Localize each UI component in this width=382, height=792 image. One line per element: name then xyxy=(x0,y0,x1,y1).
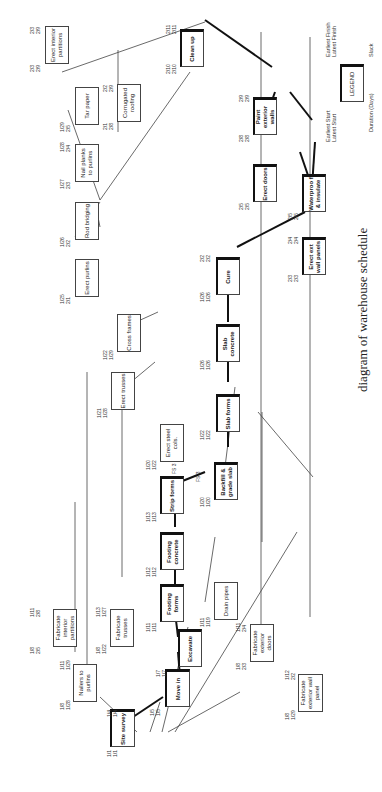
date-label: 1/26 1/26 xyxy=(200,360,211,370)
date-label: 1/25 2/1 xyxy=(60,294,71,304)
node-label: Drain pipes xyxy=(223,586,230,616)
date-label: 2/10 2/10 xyxy=(166,64,177,74)
node-label: Nail planks to purlins xyxy=(80,145,94,181)
node-label: Paint exterior walls xyxy=(255,100,276,134)
date-label: 1/7 1/7 xyxy=(156,670,167,677)
date-label: 1/29 2/5 xyxy=(60,122,71,132)
date-label: 1/13 1/27 xyxy=(96,607,107,617)
node-drain-pipes[interactable]: Drain pipes xyxy=(214,582,238,620)
node-label: Cross frames xyxy=(126,315,133,351)
date-label: 1/22 1/29 xyxy=(103,350,114,360)
node-erect-interior-partitions[interactable]: Erect interior partitions xyxy=(45,26,69,64)
date-label: 2/11 2/11 xyxy=(166,25,177,34)
node-fabricate-trusses[interactable]: Fabricate trusses xyxy=(110,609,134,647)
date-label: 1/26 1/26 xyxy=(200,292,211,302)
node-label: Waterproo f & insulate xyxy=(308,177,322,211)
node-label: Erect steel cols. xyxy=(165,425,179,461)
date-label: 2/5 2/5 xyxy=(239,203,250,210)
node-waterproof-insulate[interactable]: Waterproo f & insulate xyxy=(302,174,326,212)
node-label: Erect doors xyxy=(262,167,269,200)
schedule-diagram: Site survey Move in Nailers to purlins F… xyxy=(0,0,382,792)
node-footing-concrete[interactable]: Footing concrete xyxy=(160,532,184,570)
date-label: 1/27 2/3 xyxy=(60,179,71,189)
legend-finish: Earliest Finish Latest Finish xyxy=(325,22,337,57)
node-label: Erect interior partitions xyxy=(50,27,64,63)
node-excavate[interactable]: Excavate xyxy=(178,629,202,667)
node-cure[interactable]: Cure xyxy=(216,257,240,295)
node-label: Fabricate exterior doors xyxy=(252,625,273,661)
date-label: 2/2 2/2 xyxy=(200,255,211,262)
date-label: 2/3 2/3 xyxy=(288,275,299,282)
node-label: Erect trusses xyxy=(120,374,127,409)
node-erect-doors[interactable]: Erect doors xyxy=(253,164,277,202)
legend-slack: Slack xyxy=(368,44,374,57)
node-fabricate-exterior-doors[interactable]: Fabricate exterior doors xyxy=(250,624,274,662)
date-label: 1/11 1/29 xyxy=(60,660,71,670)
node-erect-purlins[interactable]: Erect purlins xyxy=(75,259,99,297)
node-fabricate-exterior-wall-panel[interactable]: Fabricate exterior wall panel xyxy=(298,674,323,712)
node-nail-planks-to-purlins[interactable]: Nail planks to purlins xyxy=(75,144,99,182)
node-fabricate-interior-partitions[interactable]: Fabricate interior partitions xyxy=(53,609,77,647)
legend-label: LEGEND xyxy=(349,72,356,97)
node-move-in[interactable]: Move in xyxy=(165,669,190,707)
diagram-caption: diagram of warehouse schedule xyxy=(355,228,371,392)
node-strip-forms[interactable]: Strip forms xyxy=(160,476,184,514)
node-label: Fabricate interior partitions xyxy=(55,610,76,646)
node-label: Slab forms xyxy=(225,399,232,430)
node-label: Strip forms xyxy=(169,480,176,512)
node-label: Erect purlins xyxy=(84,261,91,294)
node-label: Footing forms xyxy=(166,587,180,621)
node-erect-ext-wall-panels[interactable]: Erect ext wall panels xyxy=(302,237,326,275)
legend-duration: Duration (Days) xyxy=(368,93,374,132)
date-label: 1/26 2/2 xyxy=(60,237,71,247)
date-label: 1/13 1/13 xyxy=(146,512,157,522)
node-label: Site survey xyxy=(120,713,127,745)
date-label: 1/5 1/5 xyxy=(150,709,161,716)
node-nailers-to-purlins[interactable]: Nailers to purlins xyxy=(73,664,97,702)
fs-annotation: FS 3 xyxy=(172,463,178,474)
node-footing-forms[interactable]: Footing forms xyxy=(160,584,184,622)
node-label: Backfill & grade slab xyxy=(220,465,234,499)
date-label: 1/11 2/8 xyxy=(30,608,41,617)
fs-annotation: FS 3 xyxy=(196,471,202,482)
date-label: 1/8 2/3 xyxy=(236,663,247,670)
node-clean-up[interactable]: Clean up xyxy=(180,29,204,67)
node-label: Fabricate trusses xyxy=(115,610,129,646)
date-label: 2/1 2/8 xyxy=(103,123,114,130)
date-label: 2/5 2/5 xyxy=(288,213,299,220)
node-label: Fabricate exterior wall panel xyxy=(300,675,321,711)
node-label: Excavate xyxy=(187,636,194,662)
node-label: Rod bridging xyxy=(84,204,91,238)
legend-start: Earliest Start Latest Start xyxy=(325,111,337,142)
date-label: 1/1 1/1 xyxy=(107,750,118,757)
node-label: Slab concrete xyxy=(222,327,236,361)
node-erect-trusses[interactable]: Erect trusses xyxy=(111,372,135,410)
node-cross-frames[interactable]: Cross frames xyxy=(117,314,141,352)
date-label: 1/11 1/19 xyxy=(200,617,211,627)
node-label: Nailers to purlins xyxy=(78,665,92,701)
date-label: 1/8 1/29 xyxy=(285,710,296,720)
node-slab-forms[interactable]: Slab forms xyxy=(216,394,240,432)
node-label: Erect ext wall panels xyxy=(308,240,322,274)
node-slab-concrete[interactable]: Slab concrete xyxy=(216,324,240,362)
node-label: Move in xyxy=(175,678,182,700)
date-label: 1/12 2/2 xyxy=(285,670,296,680)
date-label: 1/21 1/28 xyxy=(97,408,108,418)
node-rod-bridging[interactable]: Rod bridging xyxy=(75,202,99,240)
node-corrugated-roofing[interactable]: Corrugated roofing xyxy=(117,84,141,122)
node-erect-steel-cols[interactable]: Erect steel cols. xyxy=(160,424,184,462)
date-label: 1/8 2/5 xyxy=(30,647,41,654)
date-label: 1/28 2/4 xyxy=(60,142,71,152)
date-label: 2/3 2/9 xyxy=(30,27,41,34)
date-label: 1/8 1/28 xyxy=(60,700,71,710)
date-label: 2/9 2/9 xyxy=(239,95,250,102)
date-label: 1/12 1/12 xyxy=(146,567,157,577)
node-tar-paper[interactable]: Tar paper xyxy=(75,87,99,125)
date-label: 1/20 1/20 xyxy=(200,497,211,507)
date-label: 2/4 2/4 xyxy=(288,237,299,244)
legend-box: LEGEND xyxy=(340,64,364,102)
node-backfill-grade-slab[interactable]: Backfill & grade slab xyxy=(214,462,238,500)
date-label: 1/8 1/22 xyxy=(96,644,107,654)
node-paint-exterior-walls[interactable]: Paint exterior walls xyxy=(253,97,277,135)
node-label: Tar paper xyxy=(84,93,91,118)
